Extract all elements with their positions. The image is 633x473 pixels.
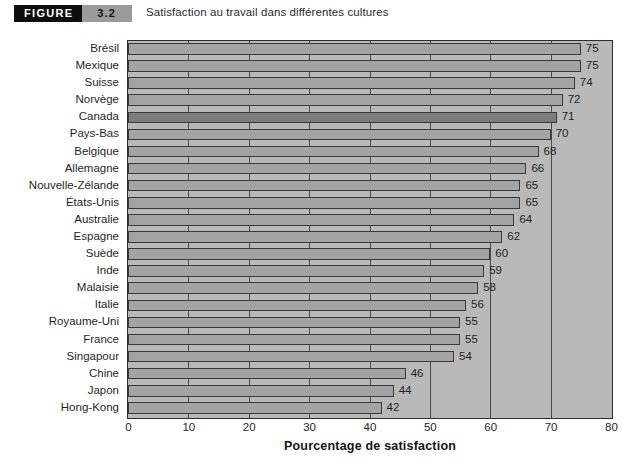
bar-row	[128, 126, 612, 143]
bar-row	[128, 280, 612, 297]
bar-row	[128, 109, 612, 126]
y-axis-label: Suède	[0, 245, 123, 262]
bar-value-label: 75	[586, 57, 599, 74]
y-axis-label: Inde	[0, 262, 123, 279]
bar-value-label: 64	[519, 211, 532, 228]
bar-value-label: 56	[471, 296, 484, 313]
bar-value-label: 62	[507, 228, 520, 245]
bar-row	[128, 246, 612, 263]
bar-row	[128, 41, 612, 58]
y-axis-label: Pays-Bas	[0, 125, 123, 142]
bar-hong-kong	[128, 402, 382, 414]
y-axis-label: États-Unis	[0, 194, 123, 211]
bar-japon	[128, 385, 394, 397]
bar-chine	[128, 368, 406, 380]
y-axis-label: Suisse	[0, 74, 123, 91]
bar-row	[128, 314, 612, 331]
bar-value-label: 72	[568, 91, 581, 108]
bar-value-label: 55	[465, 313, 478, 330]
bar-value-label: 65	[525, 194, 538, 211]
bar-australie	[128, 214, 514, 226]
y-axis-label: Japon	[0, 382, 123, 399]
y-axis-label: Nouvelle-Zélande	[0, 177, 123, 194]
figure-label: FIGURE	[14, 5, 82, 22]
y-axis-label: Allemagne	[0, 160, 123, 177]
bar-norv-ge	[128, 94, 563, 106]
y-axis-label: Espagne	[0, 228, 123, 245]
y-axis-label: France	[0, 331, 123, 348]
figure-caption: Satisfaction au travail dans différentes…	[146, 6, 389, 18]
bar-value-label: 70	[556, 125, 569, 142]
bar-france	[128, 334, 460, 346]
figure-number: 3.2	[82, 5, 132, 22]
bar-value-label: 60	[495, 245, 508, 262]
y-axis-label: Australie	[0, 211, 123, 228]
x-axis-ticks: 01020304050607080	[127, 419, 613, 441]
bar-value-label: 74	[580, 74, 593, 91]
bar-royaume-uni	[128, 317, 460, 329]
bar-row	[128, 263, 612, 280]
figure-tag: FIGURE 3.2	[14, 5, 132, 22]
bar-pays-bas	[128, 129, 551, 141]
bar-value-label: 42	[387, 399, 400, 416]
bar--tats-unis	[128, 197, 520, 209]
bar-espagne	[128, 231, 502, 243]
bar-value-label: 54	[459, 348, 472, 365]
bar-value-label: 46	[411, 365, 424, 382]
bars-layer	[128, 41, 612, 418]
bar-canada	[128, 112, 557, 124]
bar-row	[128, 349, 612, 366]
bar-br-sil	[128, 43, 581, 55]
y-axis-label: Italie	[0, 296, 123, 313]
bar-value-label: 66	[531, 160, 544, 177]
bar-malaisie	[128, 282, 478, 294]
y-axis-label: Norvège	[0, 91, 123, 108]
y-axis-category-labels: BrésilMexiqueSuisseNorvègeCanadaPays-Bas…	[0, 40, 123, 419]
bar-inde	[128, 265, 484, 277]
y-axis-label: Singapour	[0, 348, 123, 365]
x-tick-10: 10	[182, 421, 195, 433]
figure-header: FIGURE 3.2 Satisfaction au travail dans …	[0, 0, 633, 30]
bar-row	[128, 58, 612, 75]
bar-italie	[128, 300, 466, 312]
x-tick-40: 40	[364, 421, 377, 433]
bar-row	[128, 144, 612, 161]
bar-allemagne	[128, 163, 526, 175]
bar-row	[128, 195, 612, 212]
bar-value-label: 75	[586, 40, 599, 57]
bar-belgique	[128, 146, 539, 158]
y-axis-label: Malaisie	[0, 279, 123, 296]
bar-value-label: 68	[544, 143, 557, 160]
y-axis-label: Belgique	[0, 143, 123, 160]
bar-value-label: 44	[399, 382, 412, 399]
bar-value-label: 58	[483, 279, 496, 296]
y-axis-label: Chine	[0, 365, 123, 382]
x-tick-70: 70	[545, 421, 558, 433]
bar-value-label: 71	[562, 108, 575, 125]
y-axis-label: Mexique	[0, 57, 123, 74]
bar-row	[128, 229, 612, 246]
plot-area	[127, 40, 613, 419]
bar-row	[128, 383, 612, 400]
bar-su-de	[128, 248, 490, 260]
bar-row	[128, 332, 612, 349]
y-axis-label: Brésil	[0, 40, 123, 57]
y-axis-label: Hong-Kong	[0, 399, 123, 416]
bar-value-label: 59	[489, 262, 502, 279]
bar-value-label: 55	[465, 331, 478, 348]
bar-row	[128, 178, 612, 195]
bar-singapour	[128, 351, 454, 363]
x-tick-60: 60	[484, 421, 497, 433]
bar-row	[128, 92, 612, 109]
bar-mexique	[128, 60, 581, 72]
x-axis-title: Pourcentage de satisfaction	[127, 439, 613, 453]
x-tick-20: 20	[243, 421, 256, 433]
bar-row	[128, 297, 612, 314]
bar-row	[128, 400, 612, 417]
x-tick-80: 80	[605, 421, 618, 433]
bar-row	[128, 212, 612, 229]
chart-container: BrésilMexiqueSuisseNorvègeCanadaPays-Bas…	[0, 30, 633, 473]
x-tick-50: 50	[424, 421, 437, 433]
x-tick-30: 30	[303, 421, 316, 433]
y-axis-label: Royaume-Uni	[0, 313, 123, 330]
